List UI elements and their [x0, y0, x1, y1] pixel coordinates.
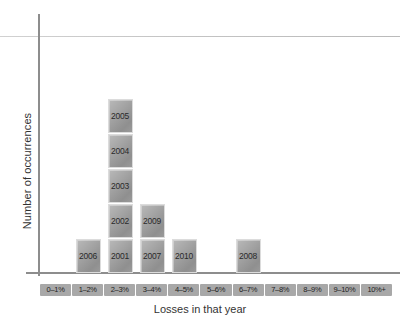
x-tick-label: 0–1%	[40, 284, 71, 296]
bar-segment: 2007	[140, 239, 165, 273]
chart-figure: Number of occurrences 200620012002200320…	[0, 0, 400, 325]
bar-stack: 20012002200320042005	[104, 99, 136, 273]
bar-column	[296, 14, 328, 273]
x-tick-label: 6–7%	[233, 284, 264, 296]
bar-segment: 2004	[108, 134, 133, 168]
y-axis-title: Number of occurrences	[21, 96, 33, 246]
x-tick-label: 7–8%	[265, 284, 296, 296]
bar-column	[264, 14, 296, 273]
bar-column: 2008	[232, 14, 264, 273]
bar-column: 2010	[168, 14, 200, 273]
bar-stack: 2006	[72, 239, 104, 273]
bar-column	[40, 14, 72, 273]
bar-stack: 2008	[232, 239, 264, 273]
bar-column	[360, 14, 392, 273]
bar-segment: 2002	[108, 204, 133, 238]
x-axis-title: Losses in that year	[0, 303, 400, 315]
x-tick-label: 9–10%	[329, 284, 360, 296]
bar-column: 20012002200320042005	[104, 14, 136, 273]
bar-segment: 2009	[140, 204, 165, 238]
bar-segment: 2003	[108, 169, 133, 203]
bar-stack: 2010	[168, 239, 200, 273]
x-tick-label: 10%+	[361, 284, 392, 296]
bar-segment: 2006	[76, 239, 101, 273]
x-tick-label: 8–9%	[297, 284, 328, 296]
plot-area: 2006200120022003200420052007200920102008	[40, 14, 392, 273]
bar-segment: 2010	[172, 239, 197, 273]
bar-column	[328, 14, 360, 273]
bar-stack: 20072009	[136, 204, 168, 273]
x-tick-label: 5–6%	[200, 284, 231, 296]
bar-segment: 2005	[108, 99, 133, 133]
bar-segment: 2008	[236, 239, 261, 273]
x-tick-label: 3–4%	[136, 284, 167, 296]
bar-column: 2006	[72, 14, 104, 273]
x-tick-label: 4–5%	[168, 284, 199, 296]
bar-column	[200, 14, 232, 273]
bar-column: 20072009	[136, 14, 168, 273]
x-tick-label: 1–2%	[72, 284, 103, 296]
x-axis-tick-labels: 0–1%1–2%2–3%3–4%4–5%5–6%6–7%7–8%8–9%9–10…	[40, 284, 392, 296]
x-tick-label: 2–3%	[104, 284, 135, 296]
bar-segment: 2001	[108, 239, 133, 273]
